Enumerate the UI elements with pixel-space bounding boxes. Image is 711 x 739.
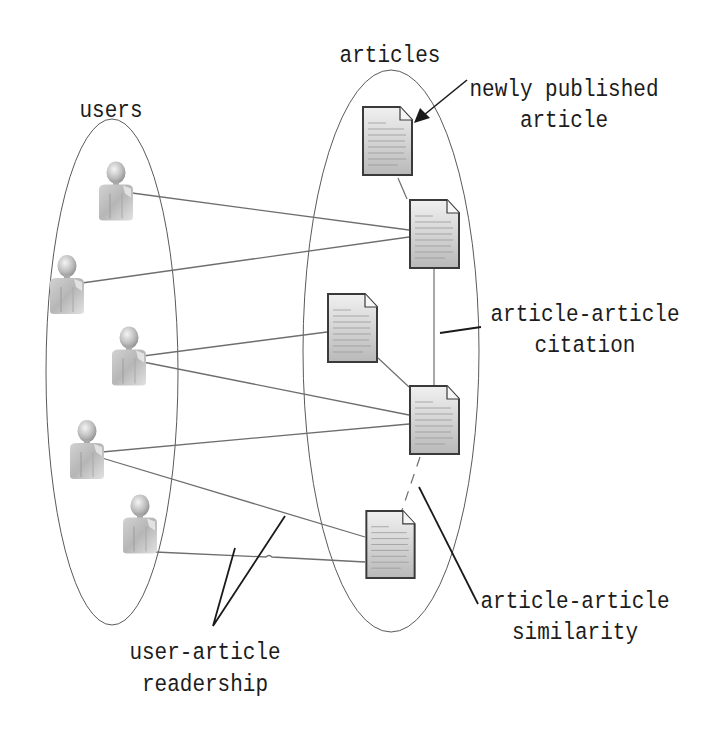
article-5-document-icon <box>366 511 414 578</box>
newly-published-arrowhead-icon <box>414 108 430 123</box>
user-5-user-icon <box>123 495 157 554</box>
citation-pointer-line <box>440 327 481 333</box>
edge-user3-article3 <box>143 332 327 356</box>
edge-user3-article4 <box>143 362 409 415</box>
article-3-document-icon <box>328 294 377 362</box>
newly-published-label-line1: newly published <box>466 75 662 104</box>
edge-article3-article4 <box>378 358 409 387</box>
similarity-pointer-line <box>419 487 478 604</box>
readership-label-line2: readership <box>120 670 290 699</box>
citation-label-line2: citation <box>485 331 685 360</box>
edge-article1-article2 <box>398 178 407 199</box>
user-1-user-icon <box>99 162 133 221</box>
articles-group-label: articles <box>335 41 445 70</box>
similarity-label-line1: article-article <box>478 587 672 616</box>
article-1-document-icon <box>363 107 412 175</box>
user-4-user-icon <box>70 420 104 479</box>
edge-article4-article5-similarity <box>402 457 420 510</box>
newly-published-label-line2: article <box>466 106 662 135</box>
article-2-document-icon <box>410 200 459 268</box>
users-group-label: users <box>78 96 144 125</box>
newly-published-arrow-line <box>424 80 467 115</box>
readership-label-line1: user-article <box>120 638 290 667</box>
citation-label-line1: article-article <box>485 300 685 329</box>
readership-pointer-lines <box>213 516 285 626</box>
edge-user4-article4 <box>102 424 409 452</box>
user-3-user-icon <box>112 327 146 386</box>
article-4-document-icon <box>410 386 459 454</box>
user-2-user-icon <box>50 255 84 314</box>
edge-user1-article2 <box>132 193 409 230</box>
similarity-label-line2: similarity <box>478 618 672 647</box>
edge-user2-article2 <box>82 237 409 283</box>
